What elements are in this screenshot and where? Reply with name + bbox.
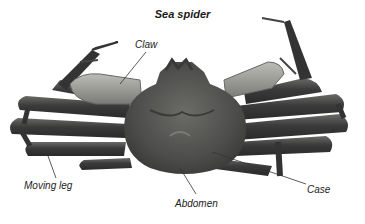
label-case: Case: [307, 184, 330, 195]
diagram-title: Sea spider: [0, 8, 365, 20]
label-abdomen: Abdomen: [175, 198, 218, 209]
label-claw: Claw: [135, 39, 157, 50]
label-moving-leg: Moving leg: [24, 180, 72, 191]
leader-line-leg: [48, 156, 56, 178]
left-legs: [10, 42, 132, 170]
diagram-canvas: Sea spider Claw Moving leg Abdomen Case: [0, 0, 365, 224]
carapace: [124, 60, 246, 174]
